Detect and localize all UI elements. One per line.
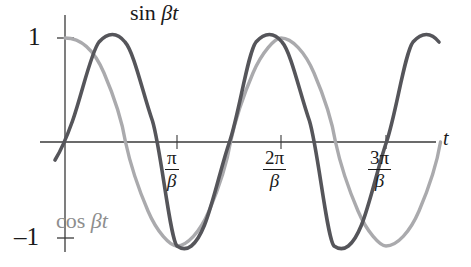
- x-tick-label-2-denominator: β: [263, 170, 286, 191]
- sin-label-t: t: [172, 0, 178, 25]
- x-tick-label-3-denominator: β: [368, 170, 391, 191]
- y-axis-tick-label-one: 1: [28, 24, 41, 49]
- cos-curve-label: cos βt: [56, 210, 108, 232]
- x-tick-label-three-pi-over-beta: 3π β: [368, 148, 391, 191]
- cos-label-t: t: [102, 208, 108, 233]
- cos-label-beta: β: [91, 208, 102, 233]
- x-tick-label-pi-over-beta: π β: [165, 148, 179, 191]
- x-tick-label-1-denominator: β: [165, 170, 179, 191]
- x-tick-label-two-pi-over-beta: 2π β: [263, 148, 286, 191]
- x-tick-label-2-numerator: 2π: [263, 148, 286, 170]
- x-tick-label-1-numerator: π: [165, 148, 179, 170]
- sin-label-beta: β: [161, 0, 172, 25]
- sin-label-function: sin: [130, 0, 156, 25]
- x-tick-label-3-numerator: 3π: [368, 148, 391, 170]
- sin-curve-label: sin βt: [130, 2, 178, 24]
- sine-cosine-plot-figure: 1 –1 t π β 2π β 3π β sin βt cos βt: [0, 0, 471, 267]
- cos-label-function: cos: [56, 208, 85, 233]
- x-axis-label-t: t: [443, 128, 449, 148]
- y-axis-tick-label-minus-one: –1: [14, 224, 39, 249]
